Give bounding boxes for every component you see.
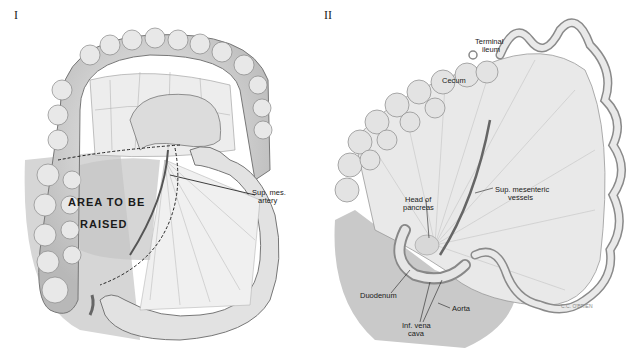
pancreas-label-line2: pancreas (403, 204, 434, 212)
panel-numeral: I (14, 8, 18, 23)
illustration-panel-2: II Terminal ileum Cecum Head of pancreas… (315, 0, 630, 356)
cecum-label: Cecum (442, 77, 466, 85)
area-label-line2: RAISED (80, 218, 128, 230)
illustration-panel-1: I AREA TO BE RAISED Sup. mes. artery (0, 0, 315, 356)
sup-mesenteric-vessels-label-line2: vessels (508, 194, 533, 202)
intestine-illustration-1 (0, 0, 315, 356)
aorta-label: Aorta (452, 305, 470, 313)
area-label-line1: AREA TO BE (68, 196, 145, 208)
duodenum-label: Duodenum (360, 292, 397, 300)
artery-label-line2: artery (258, 197, 277, 205)
panel-numeral: II (324, 8, 332, 23)
inf-vena-cava-label-line2: cava (408, 330, 424, 338)
terminal-ileum-label-line2: ileum (482, 46, 500, 54)
artist-signature: C.C. O'BRIEN (561, 303, 593, 309)
